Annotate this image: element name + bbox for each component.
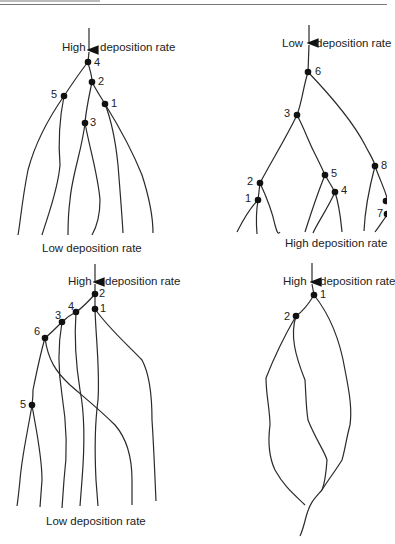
node-label: 6 [34,326,40,337]
panel-bottom-right-top-label-left: High [283,276,307,288]
node-label: 6 [315,66,321,77]
panel-top-right [237,25,387,234]
node-label: 3 [90,117,96,128]
node-label: 7 [377,208,383,219]
panel-top-right-bottom-label: High deposition rate [285,238,387,250]
node-label: 2 [284,311,290,322]
panel-top-right-top-label-left: Low [282,38,303,50]
panel-bottom-left-top-label-left: High [68,276,92,288]
node-label: 8 [381,160,387,171]
node-label: 3 [55,310,61,321]
panel-bottom-left-bottom-label: Low deposition rate [46,516,146,528]
panel-bottom-right-top-label-right: deposition rate [320,276,395,288]
node-label: 2 [99,288,105,299]
node-label: 1 [320,289,326,300]
panel-top-left [18,28,153,235]
panel-top-left-top-label-right: deposition rate [100,42,175,54]
node-label: 1 [245,193,251,204]
node-label: 5 [20,399,26,410]
node-label: 4 [68,301,74,312]
node-label: 5 [51,89,57,100]
node-label: 1 [111,98,117,109]
node-label: 1 [100,303,106,314]
panel-bottom-right [266,263,351,536]
panel-top-left-bottom-label: Low deposition rate [42,243,142,255]
node-label: 4 [94,57,100,68]
node-label: 4 [341,185,347,196]
panel-bottom-left-top-label-right: deposition rate [105,276,180,288]
node-label: 3 [284,108,290,119]
panel-bottom-left [17,264,156,508]
panel-top-right-top-label-right: deposition rate [316,38,391,50]
panel-top-left-top-label-left: High [62,42,86,54]
node-label: 5 [331,168,337,179]
node-label: 2 [98,76,104,87]
node-label: 2 [247,176,253,187]
